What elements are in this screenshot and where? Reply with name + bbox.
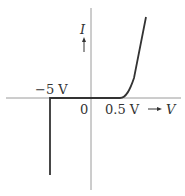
v-arrow-head-icon [157, 107, 162, 111]
i-arrow-head-icon [82, 37, 86, 42]
x-axis-label: V [166, 103, 175, 116]
iv-plot [0, 0, 185, 196]
breakdown-voltage-label: −5 V [35, 83, 68, 96]
threshold-voltage-label: 0.5 V [105, 103, 139, 116]
origin-label: 0 [80, 103, 88, 116]
y-axis-label: I [80, 23, 85, 36]
